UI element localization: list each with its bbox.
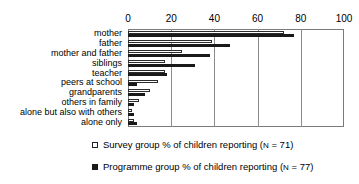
bar-survey-group-7 — [128, 99, 139, 102]
category-label-2: mother and father — [51, 49, 122, 58]
category-label-4: teacher — [92, 69, 122, 78]
legend-item-0: Survey group % of children reporting (N … — [92, 139, 293, 151]
bar-survey-group-2 — [128, 50, 182, 53]
gridline-80 — [301, 29, 302, 127]
category-label-6: grandparents — [69, 88, 122, 97]
y-axis-category-labels: motherfathermother and fathersiblingstea… — [0, 29, 125, 127]
bar-programme-group-9 — [128, 122, 137, 125]
bar-survey-group-6 — [128, 89, 150, 92]
category-label-9: alone only — [81, 118, 122, 127]
bar-chart: 020406080100 motherfathermother and fath… — [0, 0, 359, 184]
bar-survey-group-8 — [128, 109, 132, 112]
chart-legend: Survey group % of children reporting (N … — [0, 139, 359, 184]
bar-programme-group-0 — [128, 34, 294, 37]
bar-survey-group-3 — [128, 60, 165, 63]
bar-programme-group-5 — [128, 83, 137, 86]
category-label-8: alone but also with others — [20, 108, 122, 117]
legend-n-symbol-1: N — [283, 163, 289, 172]
x-tick-label-60: 60 — [252, 13, 263, 25]
bar-programme-group-7 — [128, 103, 134, 106]
plot-area — [128, 29, 344, 127]
category-label-5: peers at school — [61, 78, 122, 87]
legend-n-symbol-0: N — [263, 141, 269, 150]
bar-survey-group-1 — [128, 40, 212, 43]
category-label-0: mother — [94, 29, 122, 38]
x-tick-label-20: 20 — [166, 13, 177, 25]
bar-programme-group-6 — [128, 93, 145, 96]
legend-item-1: Programme group % of children reporting … — [92, 161, 313, 173]
bar-programme-group-1 — [128, 44, 230, 47]
bar-programme-group-8 — [128, 113, 134, 116]
gridline-60 — [258, 29, 259, 127]
bar-survey-group-0 — [128, 31, 284, 34]
bar-survey-group-9 — [128, 119, 134, 122]
bar-programme-group-3 — [128, 64, 195, 67]
category-label-7: others in family — [61, 98, 122, 107]
category-label-1: father — [99, 39, 122, 48]
legend-open-square-icon — [92, 142, 98, 148]
bar-survey-group-4 — [128, 70, 165, 73]
category-label-3: siblings — [92, 59, 122, 68]
legend-label-1: Programme group % of children reporting … — [103, 161, 313, 173]
x-axis-tick-labels: 020406080100 — [128, 13, 344, 27]
bar-survey-group-5 — [128, 80, 158, 83]
legend-label-0: Survey group % of children reporting (N … — [103, 139, 293, 151]
x-tick-label-0: 0 — [125, 13, 131, 25]
legend-filled-square-icon — [92, 164, 98, 170]
x-tick-label-80: 80 — [295, 13, 306, 25]
bar-programme-group-4 — [128, 73, 167, 76]
bar-programme-group-2 — [128, 54, 210, 57]
x-tick-label-40: 40 — [209, 13, 220, 25]
x-tick-label-100: 100 — [336, 13, 353, 25]
